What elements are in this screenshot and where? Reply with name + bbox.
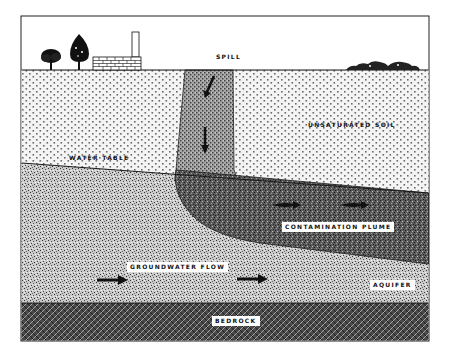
- water-table-label: WATER TABLE: [66, 153, 133, 163]
- contamination-plume-label: CONTAMINATION PLUME: [282, 222, 394, 232]
- unsaturated-soil-label: UNSATURATED SOIL: [305, 120, 399, 130]
- groundwater-flow-label: GROUNDWATER FLOW: [127, 262, 228, 272]
- bedrock-label: BEDROCK: [212, 316, 260, 326]
- spill-label: SPILL: [213, 52, 244, 62]
- aquifer-label: AQUIFER: [370, 280, 415, 290]
- spill-column: [175, 70, 240, 180]
